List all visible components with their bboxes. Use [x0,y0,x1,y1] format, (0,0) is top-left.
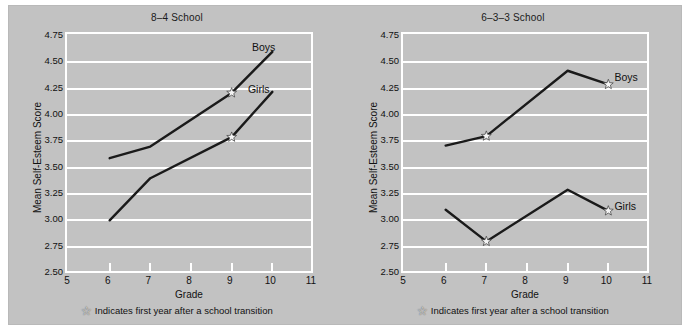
y-tick-label: 2.75 [45,239,64,250]
y-tick-label: 3.50 [45,160,64,171]
y-tick-label: 2.50 [381,266,400,277]
figure-panel-background: 8–4 School 2.502.753.003.253.503.754.004… [9,6,681,324]
y-tick-label: 4.00 [381,108,400,119]
chart-panel-8-4: 8–4 School 2.502.753.003.253.503.754.004… [9,6,345,324]
series-line [446,190,609,242]
x-axis-label: Grade [65,289,313,300]
x-tick-label: 8 [522,275,528,286]
y-axis-label: Mean Self-Esteem Score [32,78,43,238]
y-tick-label: 3.50 [381,160,400,171]
y-tick-label: 2.50 [45,266,64,277]
y-axis-label: Mean Self-Esteem Score [368,78,379,238]
x-axis-ticks: 567891011 [65,274,313,290]
x-tick-label: 11 [306,275,316,286]
data-lines [403,34,651,275]
y-tick-label: 4.25 [381,81,400,92]
series-label-boys: Boys [252,41,275,53]
y-tick-label: 3.25 [45,187,64,198]
series-line [110,92,273,221]
star-icon: ☆ [417,304,428,318]
y-tick-label: 3.00 [45,213,64,224]
chart-panel-6-3-3: 6–3–3 School 2.502.753.003.253.503.754.0… [345,6,681,324]
figure: 8–4 School 2.502.753.003.253.503.754.004… [0,0,690,333]
x-tick-label: 5 [64,275,70,286]
x-tick-label: 10 [601,275,612,286]
series-line [110,52,273,158]
plot-area [401,32,649,273]
y-tick-label: 3.25 [381,187,400,198]
caption-text: Indicates first year after a school tran… [95,305,273,316]
y-tick-label: 4.50 [45,55,64,66]
x-tick-label: 8 [186,275,192,286]
series-line [446,71,609,146]
x-tick-label: 7 [146,275,152,286]
y-tick-label: 4.00 [45,108,64,119]
x-tick-label: 5 [400,275,406,286]
transition-star-icon [603,79,613,88]
series-label-girls: Girls [614,200,636,212]
panel-title: 8–4 School [9,12,345,23]
chart-caption: ☆ Indicates first year after a school tr… [9,304,345,318]
y-tick-label: 3.75 [45,134,64,145]
x-tick-label: 9 [227,275,233,286]
y-tick-label: 3.00 [381,213,400,224]
x-tick-label: 7 [482,275,488,286]
chart-caption: ☆ Indicates first year after a school tr… [345,304,681,318]
x-axis-ticks: 567891011 [401,274,649,290]
y-tick-label: 2.75 [381,239,400,250]
data-lines [67,34,315,275]
star-icon: ☆ [81,304,92,318]
x-tick-label: 10 [265,275,276,286]
y-tick-label: 4.50 [381,55,400,66]
series-label-boys: Boys [614,71,637,83]
caption-text: Indicates first year after a school tran… [431,305,609,316]
x-tick-label: 9 [563,275,569,286]
x-tick-label: 6 [441,275,447,286]
x-axis-label: Grade [401,289,649,300]
y-tick-label: 3.75 [381,134,400,145]
y-tick-label: 4.25 [45,81,64,92]
transition-star-icon [603,206,613,215]
x-tick-label: 11 [642,275,652,286]
y-tick-label: 4.75 [45,29,64,40]
y-tick-label: 4.75 [381,29,400,40]
series-label-girls: Girls [248,83,270,95]
x-tick-label: 6 [105,275,111,286]
plot-area [65,32,313,273]
panel-title: 6–3–3 School [345,12,681,23]
